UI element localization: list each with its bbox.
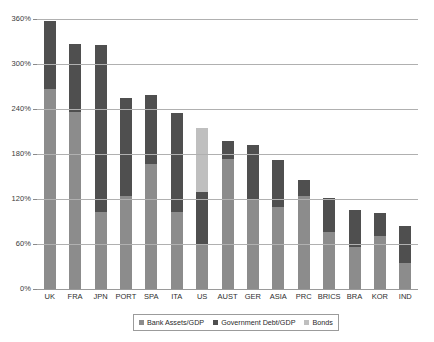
bar-segment-port-bank <box>120 196 132 289</box>
y-tick-mark <box>33 109 37 110</box>
legend-label: Bonds <box>312 318 332 327</box>
y-tick-mark <box>33 199 37 200</box>
legend-item-bank-assets-gdp[interactable]: Bank Assets/GDP <box>139 318 204 327</box>
x-axis-label-prc: PRC <box>291 292 316 302</box>
y-axis-tick-label: 240% <box>11 105 31 113</box>
y-axis-tick-label: 0% <box>20 285 31 293</box>
gridline-300% <box>37 64 418 65</box>
y-tick-mark <box>33 154 37 155</box>
x-axis-label-kor: KOR <box>367 292 392 302</box>
legend-label: Bank Assets/GDP <box>147 318 204 327</box>
x-axis-label-fra: FRA <box>62 292 87 302</box>
x-axis-label-asia: ASIA <box>266 292 291 302</box>
gridline-120% <box>37 199 418 200</box>
y-axis-tick-label: 60% <box>16 240 31 248</box>
x-axis-label-ita: ITA <box>164 292 189 302</box>
x-axis-label-uk: UK <box>37 292 62 302</box>
x-axis-label-port: PORT <box>113 292 138 302</box>
bar-segment-us-bonds <box>196 128 208 193</box>
bar-segment-bra-debt <box>349 210 361 247</box>
gridline-180% <box>37 154 418 155</box>
x-axis-labels: UKFRAJPNPORTSPAITAUSAUSTGERASIAPRCBRICSB… <box>37 291 418 305</box>
legend-item-government-debt-gdp[interactable]: Government Debt/GDP <box>213 318 295 327</box>
y-axis-tick-label: 300% <box>11 60 31 68</box>
legend-swatch-icon <box>304 320 309 325</box>
y-tick-mark <box>33 19 37 20</box>
y-tick-mark <box>33 289 37 290</box>
y-tick-mark <box>33 244 37 245</box>
bar-segment-us-debt <box>196 192 208 244</box>
bar-segment-ita-debt <box>171 113 183 212</box>
x-axis-label-aust: AUST <box>215 292 240 302</box>
plot-area <box>37 19 418 289</box>
legend-label: Government Debt/GDP <box>221 318 295 327</box>
bar-segment-us-bank <box>196 244 208 289</box>
legend-item-bonds[interactable]: Bonds <box>304 318 332 327</box>
x-axis-label-ind: IND <box>393 292 418 302</box>
bar-segment-fra-bank <box>69 112 81 289</box>
bar-segment-port-debt <box>120 98 132 196</box>
bar-segment-brics-bank <box>323 232 335 289</box>
x-axis-label-us: US <box>189 292 214 302</box>
y-axis-tick-label: 120% <box>11 195 31 203</box>
y-axis-labels: 0%60%120%180%240%300%360% <box>0 0 31 342</box>
x-axis-label-jpn: JPN <box>88 292 113 302</box>
bar-segment-aust-debt <box>222 141 234 159</box>
bar-segment-asia-bank <box>272 207 284 290</box>
bar-segment-jpn-bank <box>95 212 107 289</box>
legend-swatch-icon <box>213 320 218 325</box>
x-axis-label-bra: BRA <box>342 292 367 302</box>
stacked-bar-chart: 0%60%120%180%240%300%360% UKFRAJPNPORTSP… <box>0 0 434 342</box>
gridline-60% <box>37 244 418 245</box>
bar-segment-prc-debt <box>298 180 310 196</box>
y-axis-tick-label: 360% <box>11 15 31 23</box>
x-axis-label-brics: BRICS <box>316 292 341 302</box>
chart-legend: Bank Assets/GDPGovernment Debt/GDPBonds <box>133 314 339 331</box>
gridline-360% <box>37 19 418 20</box>
bar-segment-spa-bank <box>145 164 157 289</box>
x-axis-label-spa: SPA <box>139 292 164 302</box>
x-axis-label-ger: GER <box>240 292 265 302</box>
bar-segment-uk-bank <box>44 89 56 289</box>
legend-swatch-icon <box>139 320 144 325</box>
bar-segment-bra-bank <box>349 247 361 289</box>
bar-segment-jpn-debt <box>95 45 107 212</box>
bar-segment-aust-bank <box>222 159 234 289</box>
bar-segment-ind-bank <box>399 263 411 289</box>
bar-segment-fra-debt <box>69 44 81 112</box>
bar-segment-kor-debt <box>374 213 386 236</box>
y-axis-tick-label: 180% <box>11 150 31 158</box>
bar-segment-brics-debt <box>323 198 335 232</box>
gridline-240% <box>37 109 418 110</box>
y-tick-mark <box>33 64 37 65</box>
bar-segment-prc-bank <box>298 196 310 289</box>
gridline-0% <box>37 289 418 290</box>
bar-segment-uk-debt <box>44 21 56 89</box>
bar-segment-ita-bank <box>171 212 183 289</box>
